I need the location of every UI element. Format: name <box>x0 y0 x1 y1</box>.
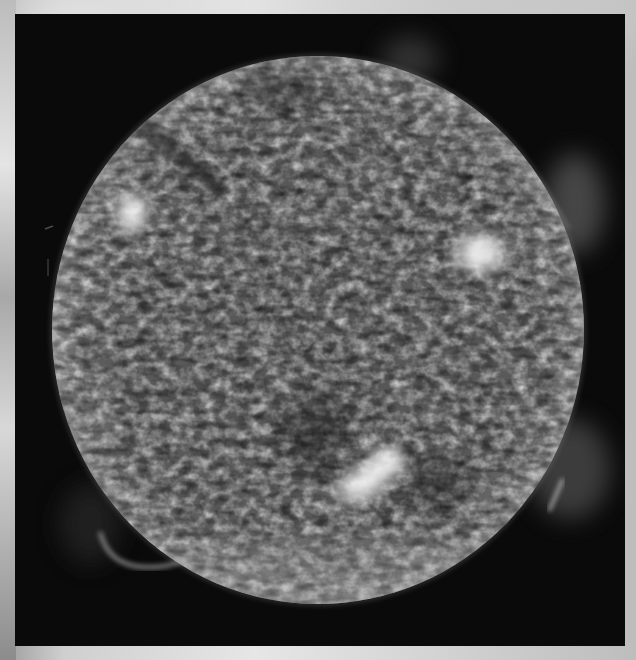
sun-illustration <box>15 14 625 646</box>
active-region-upper-left <box>110 185 154 241</box>
active-region-upper-right <box>446 225 514 281</box>
backdrop-left-edge <box>0 0 16 660</box>
solar-image-frame <box>15 14 625 646</box>
